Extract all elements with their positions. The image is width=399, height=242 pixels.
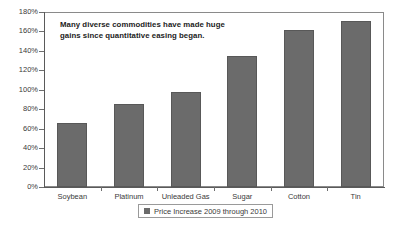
x-axis-tick-mark [214,187,215,191]
x-axis-label-soybean: Soybean [44,192,101,201]
legend-swatch-icon [144,208,150,214]
y-axis-tick-label: 100% [0,86,38,94]
y-axis-tick-mark [39,148,44,149]
y-axis-tick-label: 180% [0,8,38,16]
y-axis-tick-label: 80% [0,105,38,113]
y-axis-tick-mark [39,51,44,52]
x-axis-tick-mark [101,187,102,191]
x-axis-label-tin: Tin [327,192,384,201]
annotation-line-1: Many diverse commodities have made huge [60,20,225,29]
bar-cotton [284,30,314,187]
y-axis-tick-mark [39,70,44,71]
y-axis-tick-label: 160% [0,27,38,35]
bar-platinum [114,104,144,187]
chart-annotation: Many diverse commodities have made huge … [60,20,256,41]
y-axis-tick-mark [39,12,44,13]
y-axis-tick-label: 140% [0,47,38,55]
y-axis-tick-label: 0% [0,183,38,191]
x-axis-label-sugar: Sugar [214,192,271,201]
legend-label: Price Increase 2009 through 2010 [154,207,267,216]
y-axis-tick-label: 20% [0,164,38,172]
y-axis-tick-mark [39,90,44,91]
y-axis-tick-mark [39,31,44,32]
y-axis-tick-mark [39,187,44,188]
bar-tin [341,21,371,187]
bar-chart: 0%20%40%60%80%100%120%140%160%180% Soybe… [0,0,399,242]
x-axis-tick-mark [271,187,272,191]
y-axis-tick-label: 40% [0,144,38,152]
y-axis-tick-label: 120% [0,66,38,74]
y-axis-tick-mark [39,129,44,130]
y-axis-tick-label: 60% [0,125,38,133]
x-axis-label-unleaded-gas: Unleaded Gas [157,192,214,201]
y-axis-line [44,12,45,188]
x-axis-label-cotton: Cotton [271,192,328,201]
x-axis-tick-mark [157,187,158,191]
bar-sugar [227,56,257,187]
chart-legend: Price Increase 2009 through 2010 [138,204,273,218]
annotation-line-2: gains since quantitative easing began. [60,31,204,40]
bar-unleaded-gas [171,92,201,187]
x-axis-tick-mark [327,187,328,191]
y-axis-tick-mark [39,109,44,110]
x-axis-label-platinum: Platinum [101,192,158,201]
y-axis-tick-mark [39,168,44,169]
bar-soybean [57,123,87,187]
